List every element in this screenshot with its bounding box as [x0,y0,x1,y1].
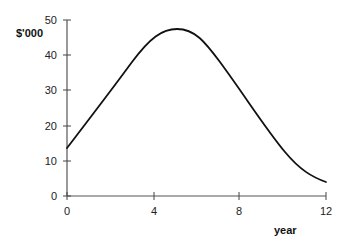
y-tick-30: 30 [45,84,57,96]
y-tick-10: 10 [45,155,57,167]
line-chart: 0 10 20 30 40 50 0 4 8 12 $'000 year [0,0,339,246]
y-tick-40: 40 [45,49,57,61]
y-tick-50: 50 [45,14,57,26]
x-axis-title: year [274,224,297,236]
y-tick-0: 0 [51,190,57,202]
x-tick-0: 0 [64,205,70,217]
data-line [67,29,326,182]
y-axis-title: $'000 [16,27,43,39]
x-tick-12: 12 [320,205,332,217]
x-tick-4: 4 [151,205,157,217]
x-tick-8: 8 [236,205,242,217]
x-tick-labels: 0 4 8 12 [64,205,332,217]
y-tick-labels: 0 10 20 30 40 50 [45,14,57,202]
y-tick-20: 20 [45,120,57,132]
